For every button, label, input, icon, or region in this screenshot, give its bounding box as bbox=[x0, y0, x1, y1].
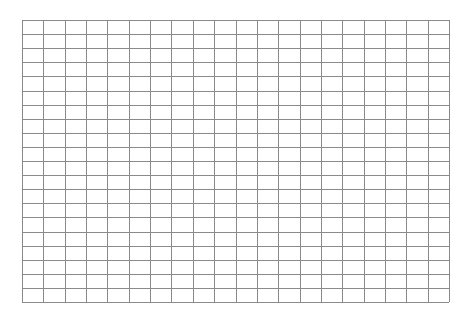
grid-lines bbox=[22, 20, 449, 302]
blank-grid bbox=[22, 20, 449, 302]
